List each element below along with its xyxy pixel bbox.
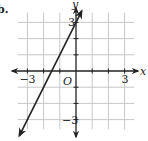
x-tick-label: −3 [19, 73, 35, 86]
y-axis-label: y [71, 0, 79, 11]
origin-label: O [63, 75, 72, 88]
x-tick-label: 3 [122, 73, 129, 86]
problem-label: b. [0, 3, 9, 16]
y-tick-label: −3 [62, 114, 78, 127]
coordinate-plane: b. y x O −333−3 [0, 0, 148, 141]
y-tick-label: 3 [68, 16, 75, 29]
x-axis-label: x [140, 65, 147, 78]
